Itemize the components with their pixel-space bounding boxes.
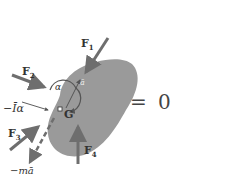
label-G: G [64,109,73,120]
label-F3: F3 [8,128,21,141]
label-F4: F4 [84,145,97,158]
equation-rhs: 0 [158,92,171,112]
label-F1: F1 [81,38,94,51]
label-alpha: α [55,83,61,92]
label-inertia-force: −mā [10,166,34,176]
inertia-couple-leader [22,102,48,110]
center-of-mass-marker [58,107,62,111]
label-F2: F2 [22,66,35,79]
kinetic-diagram: F1 F2 F3 F4 α ā −Īα G −mā = 0 [0,0,233,184]
rigid-body-figure [0,0,233,184]
label-inertia-couple: −Īα [3,103,24,114]
label-a-bar: ā [80,79,85,87]
equals-sign: = [130,92,147,112]
